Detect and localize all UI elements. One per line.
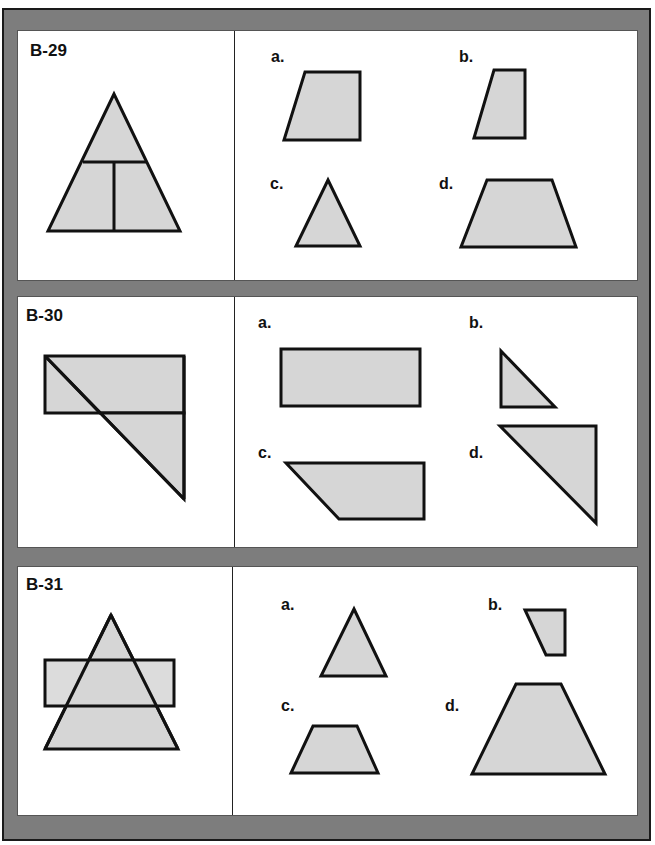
option-a-shape[interactable] (281, 349, 420, 406)
option-d-shape[interactable] (472, 684, 605, 774)
option-b-shape[interactable] (525, 610, 565, 655)
option-b-shape[interactable] (474, 70, 525, 138)
option-a-shape[interactable] (284, 72, 360, 140)
option-b-shape[interactable] (501, 351, 555, 407)
option-a-shape[interactable] (321, 609, 386, 676)
problem-row-b30: B-30 a. b. c. d. (17, 296, 638, 548)
option-d-shape[interactable] (500, 426, 596, 523)
problem-row-b29: B-29 a. b. c. d. (17, 30, 638, 281)
option-c-shape[interactable] (291, 726, 378, 773)
option-c-shape[interactable] (296, 180, 360, 246)
option-c-shape[interactable] (286, 463, 424, 519)
option-d-shape[interactable] (461, 180, 576, 247)
problem-row-b31: B-31 a. b. c. d. (17, 566, 638, 816)
